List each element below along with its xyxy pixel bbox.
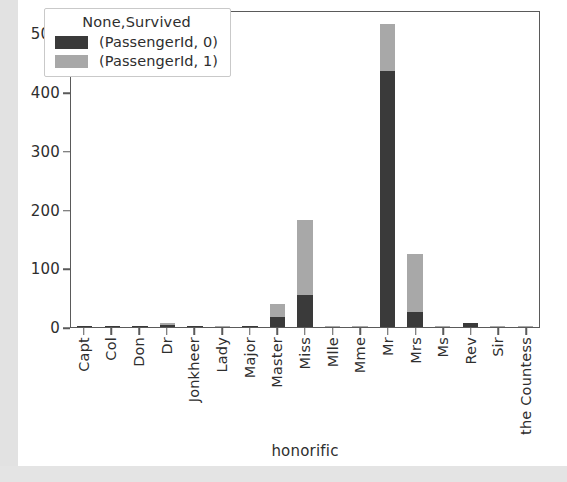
bar-segment-survived	[518, 326, 533, 327]
x-axis-tick-label: Rev	[463, 337, 479, 365]
bar-segment-not-survived	[297, 295, 312, 327]
x-axis-tick-mark	[387, 328, 389, 335]
stacked-bar	[215, 326, 230, 327]
bar-slot	[236, 12, 264, 327]
x-axis-tick	[263, 328, 291, 336]
x-axis-tick	[346, 328, 374, 336]
legend-swatch	[55, 55, 88, 68]
legend-label: (PassengerId, 0)	[99, 34, 218, 50]
x-axis-tick	[181, 328, 209, 336]
stacked-bar	[187, 326, 202, 327]
x-axis-label-cell: Mme	[346, 337, 374, 447]
bar-segment-survived	[352, 326, 367, 327]
stacked-bar	[490, 326, 505, 327]
legend-label: (PassengerId, 1)	[99, 53, 218, 69]
x-axis-tick	[208, 328, 236, 336]
x-axis-title: honorific	[70, 442, 540, 460]
x-axis-tick-label: the Countess	[518, 337, 534, 435]
page-left-margin-strip	[0, 0, 18, 466]
y-axis-tick-label: 300	[31, 143, 60, 161]
x-axis-tick-mark	[359, 328, 361, 335]
x-axis-label-cell: Mlle	[319, 337, 347, 447]
x-axis-tick-mark	[498, 328, 500, 335]
x-axis-label-cell: Sir	[485, 337, 513, 447]
x-axis-tick	[457, 328, 485, 336]
x-axis-tick	[125, 328, 153, 336]
x-axis-tick	[236, 328, 264, 336]
x-axis-tick	[291, 328, 319, 336]
stacked-bar	[352, 326, 367, 327]
y-axis-tick-mark	[63, 151, 70, 153]
x-axis-label-cell: Miss	[291, 337, 319, 447]
x-axis-tick-label: Ms	[435, 337, 451, 357]
bar-slot	[484, 12, 512, 327]
bar-slot	[512, 12, 540, 327]
bar-segment-survived	[380, 24, 395, 72]
bar-segment-not-survived	[187, 326, 202, 327]
bar-chart-figure: 0100200300400500 CaptColDonDrJonkheerLad…	[18, 0, 567, 466]
bar-segment-survived	[215, 326, 230, 327]
x-axis-label-cell: Col	[98, 337, 126, 447]
x-axis-ticks	[70, 328, 540, 336]
x-axis-tick-mark	[277, 328, 279, 335]
bar-segment-not-survived	[132, 326, 147, 327]
x-axis-tick-mark	[221, 328, 223, 335]
screenshot-page: 0100200300400500 CaptColDonDrJonkheerLad…	[0, 0, 567, 482]
x-axis-label-cell: Ms	[429, 337, 457, 447]
bar-segment-not-survived	[77, 326, 92, 327]
x-axis-tick	[485, 328, 513, 336]
x-axis-tick-label: Dr	[159, 337, 175, 355]
x-axis-tick-mark	[525, 328, 527, 335]
bar-segment-not-survived	[407, 312, 422, 327]
bar-slot	[374, 12, 402, 327]
x-axis-tick-label: Lady	[214, 337, 230, 373]
x-axis-label-cell: Master	[263, 337, 291, 447]
y-axis-tick-mark	[63, 92, 70, 94]
x-axis-tick	[374, 328, 402, 336]
bar-slot	[456, 12, 484, 327]
stacked-bar	[270, 304, 285, 327]
x-axis-tick	[319, 328, 347, 336]
stacked-bar	[518, 326, 533, 327]
stacked-bar	[242, 326, 257, 327]
stacked-bar	[435, 326, 450, 327]
x-axis-label-cell: Major	[236, 337, 264, 447]
page-bottom-margin-strip	[0, 466, 567, 482]
y-axis-tick-label: 200	[31, 202, 60, 220]
x-axis-label-cell: Don	[125, 337, 153, 447]
bar-segment-not-survived	[380, 71, 395, 327]
bar-slot	[291, 12, 319, 327]
x-axis-tick-mark	[166, 328, 168, 335]
stacked-bar	[105, 326, 120, 327]
bar-slot	[346, 12, 374, 327]
bar-segment-not-survived	[242, 326, 257, 327]
x-axis-tick	[70, 328, 98, 336]
bar-slot	[401, 12, 429, 327]
x-axis-tick-mark	[332, 328, 334, 335]
bar-segment-survived	[325, 326, 340, 327]
x-axis-tick-label: Sir	[490, 337, 506, 357]
bar-segment-survived	[297, 220, 312, 295]
stacked-bar	[160, 323, 175, 327]
x-axis-tick-label: Master	[269, 337, 285, 388]
x-axis-tick-mark	[304, 328, 306, 335]
x-axis-tick-label: Col	[103, 337, 119, 361]
x-axis-tick	[512, 328, 540, 336]
stacked-bar	[463, 323, 478, 327]
x-axis-tick-mark	[442, 328, 444, 335]
x-axis-tick-label: Mme	[352, 337, 368, 373]
x-axis-tick-labels: CaptColDonDrJonkheerLadyMajorMasterMissM…	[70, 337, 540, 447]
legend: None,Survived (PassengerId, 0)(Passenger…	[44, 8, 231, 77]
x-axis-tick-label: Mlle	[325, 337, 341, 367]
x-axis-label-cell: the Countess	[512, 337, 540, 447]
x-axis-tick	[402, 328, 430, 336]
bar-segment-not-survived	[270, 317, 285, 327]
x-axis-tick-mark	[194, 328, 196, 335]
x-axis-tick-mark	[138, 328, 140, 335]
stacked-bar	[77, 326, 92, 327]
x-axis-tick-label: Capt	[76, 337, 92, 372]
x-axis-tick	[153, 328, 181, 336]
y-axis-tick-mark	[63, 269, 70, 271]
x-axis-tick-label: Major	[242, 337, 258, 378]
x-axis-tick-label: Miss	[297, 337, 313, 369]
